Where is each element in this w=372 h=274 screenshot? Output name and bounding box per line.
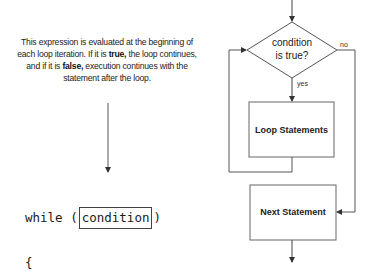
decision-label-line1: condition — [272, 37, 312, 48]
no-branch-arrow — [337, 50, 355, 212]
decision-label-line2: is true? — [276, 50, 309, 61]
while-keyword: while — [25, 210, 63, 225]
close-paren: ) — [153, 210, 161, 225]
code-line-while: while (condition) — [25, 207, 206, 223]
open-paren: ( — [63, 210, 78, 225]
code-snippet: while (condition) { // Loop statements .… — [25, 175, 206, 274]
next-statement-label: Next Statement — [260, 207, 326, 217]
condition-highlight-box: condition — [79, 207, 153, 229]
no-label: no — [340, 41, 348, 48]
yes-label: yes — [297, 80, 308, 88]
loop-statements-label: Loop Statements — [255, 125, 328, 135]
code-line-open-brace: { — [25, 255, 206, 271]
